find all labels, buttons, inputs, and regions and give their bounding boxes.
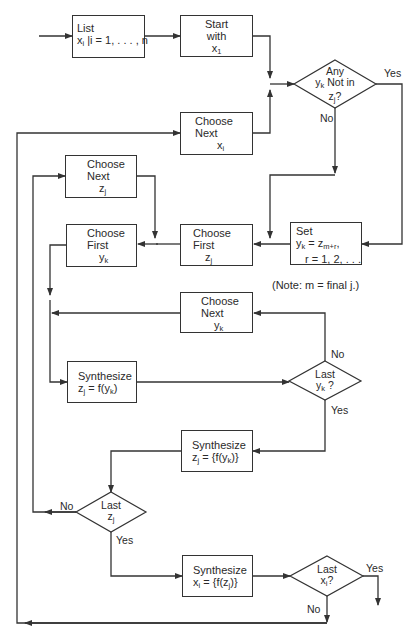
edge-label-last-xi-yes: Yes	[366, 562, 383, 574]
node-set-yk: Set yk = zm+r, r = 1, 2, . . .	[290, 222, 362, 265]
edge-label-last-zj-no: No	[60, 500, 73, 512]
note-text: (Note: m = final j.)	[272, 279, 359, 291]
node-text: First	[87, 239, 132, 251]
node-text: Choose	[195, 115, 248, 127]
node-synthesize-zj-set: Synthesize zj = {f(yk)}	[181, 430, 253, 472]
node-text: Synthesize	[78, 370, 132, 382]
node-synthesize-zj-f-yk: Synthesize zj = f(yk)	[67, 361, 137, 403]
node-text: zj	[193, 251, 248, 267]
node-text: First	[193, 239, 248, 251]
node-list-x: List xi |i = 1, . . . , n	[72, 15, 145, 58]
decision-any-yk-text: Any yk Not in zj?	[302, 66, 368, 105]
node-choose-first-yk: Choose First yk	[66, 224, 137, 267]
node-synthesize-xi-set: Synthesize xi = {f(zj)}	[182, 555, 253, 597]
node-text: x1	[185, 42, 248, 58]
node-choose-next-zj: Choose Next zj	[65, 155, 137, 198]
node-text: Choose	[193, 227, 248, 239]
node-text: yk	[201, 319, 248, 335]
node-text: Next	[87, 170, 132, 182]
node-text: zj = {f(yk)}	[192, 451, 248, 467]
decision-last-xi-text: Last xi?	[302, 564, 352, 589]
node-text: Set	[296, 225, 357, 237]
node-text: zj = f(yk)	[78, 382, 132, 398]
node-text: yk	[87, 251, 132, 267]
node-text: xi |i = 1, . . . , n	[77, 34, 140, 50]
node-text: List	[77, 22, 140, 34]
node-text: Choose	[201, 295, 248, 307]
edge-label-any-no: No	[320, 112, 333, 124]
decision-last-yk-text: Last yk ?	[300, 369, 350, 394]
node-text: r = 1, 2, . . .	[296, 253, 357, 265]
node-choose-next-yk: Choose Next yk	[180, 292, 253, 333]
node-text: Synthesize	[192, 439, 248, 451]
node-text: yk = zm+r,	[296, 237, 357, 253]
node-text: Next	[195, 127, 248, 139]
node-start-with-x1: Start with x1	[180, 15, 253, 57]
edge-label-last-zj-yes: Yes	[116, 534, 133, 546]
decision-last-zj-text: Last zj	[86, 500, 136, 525]
node-text: Start	[185, 18, 248, 30]
node-text: Choose	[87, 158, 132, 170]
node-text: Next	[201, 307, 248, 319]
node-choose-next-xi: Choose Next xi	[180, 112, 253, 155]
node-text: xi = {f(zj)}	[193, 576, 248, 592]
node-text: Choose	[87, 227, 132, 239]
node-text: Synthesize	[193, 564, 248, 576]
node-text: xi	[195, 139, 248, 155]
edge-label-last-xi-no: No	[307, 603, 320, 615]
node-text: zj	[87, 182, 132, 198]
edge-label-any-yes: Yes	[384, 67, 401, 79]
node-choose-first-zj: Choose First zj	[180, 224, 253, 266]
edge-label-last-yk-no: No	[331, 348, 344, 360]
edge-label-last-yk-yes: Yes	[331, 404, 348, 416]
node-text: with	[185, 30, 248, 42]
